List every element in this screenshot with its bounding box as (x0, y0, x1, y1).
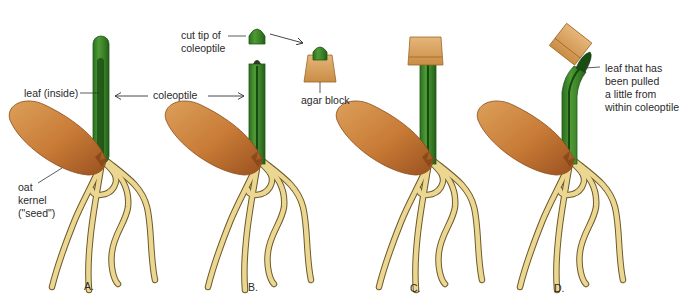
pulled-leaf-label-line3: a little from (605, 88, 656, 100)
pulled-leaf-label-line1: leaf that has (605, 62, 662, 74)
cut-tip-label-line2: coleoptile (181, 42, 225, 54)
coleoptile-experiment-diagram: leaf (inside) coleoptile cut tip of cole… (0, 0, 699, 303)
agar-block-c (408, 37, 443, 65)
pulled-leaf-label-line4: within coleoptile (605, 101, 679, 113)
cut-tip (249, 29, 265, 44)
panel-label-c: C. (410, 282, 421, 294)
pulled-leaf-label-line2: been pulled (605, 75, 659, 87)
panel-a-seedling (9, 36, 155, 290)
panel-label-b: B. (248, 281, 258, 293)
panel-label-a: A. (84, 280, 94, 292)
oat-kernel-label-line2: kernel (18, 194, 47, 206)
panel-b-seedling (165, 29, 336, 290)
oat-kernel-label-line3: ("seed") (18, 207, 55, 219)
panel-label-d: D. (554, 282, 565, 294)
coleoptile-label: coleoptile (153, 89, 197, 101)
cut-tip-label-line1: cut tip of (181, 29, 221, 41)
oat-kernel-label-line1: oat (18, 181, 33, 193)
panel-c-seedling (336, 37, 482, 290)
panel-d-seedling (477, 23, 623, 290)
leaf-inside-label: leaf (inside) (24, 87, 78, 99)
agar-block-with-tip (304, 47, 336, 82)
agar-block-label: agar block (301, 94, 349, 106)
